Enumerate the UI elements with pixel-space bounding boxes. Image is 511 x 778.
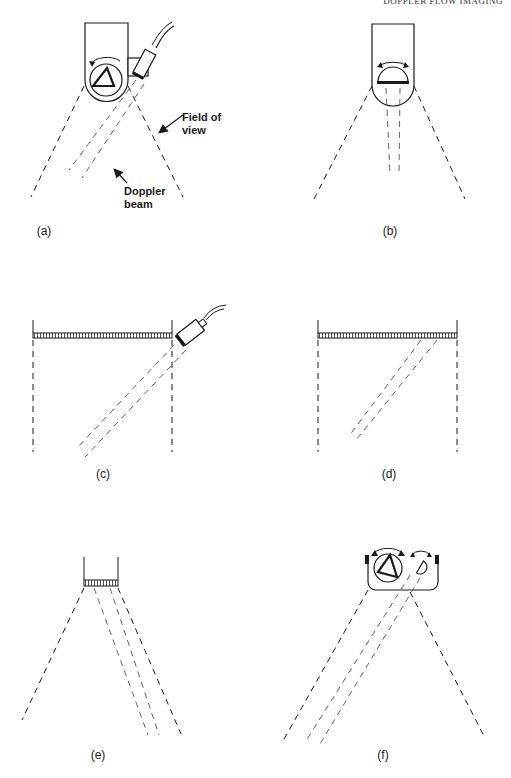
doppler-transducer	[175, 316, 210, 347]
field-of-view-label: Field of view	[182, 111, 221, 137]
doppler-beam-label-line1: Doppler	[124, 185, 166, 198]
panel-b-diagram	[314, 24, 465, 199]
caption-e: (e)	[91, 748, 106, 762]
field-of-view-edge-right	[410, 592, 484, 736]
caption-f: (f)	[377, 748, 388, 762]
rotation-arrow-icon	[374, 548, 402, 553]
field-of-view-edge-right	[128, 86, 183, 197]
panel-f-diagram	[283, 548, 484, 744]
panel-c-diagram	[33, 305, 226, 457]
panel-d-diagram	[318, 320, 457, 452]
scanner-housing	[372, 24, 414, 106]
linear-array-transducer	[318, 333, 457, 338]
doppler-beam-label-line2: beam	[124, 198, 166, 211]
caption-a: (a)	[37, 224, 52, 238]
field-of-view-edge-right	[118, 588, 181, 734]
doppler-beam-edge	[356, 340, 437, 440]
transducer-cable	[206, 309, 224, 320]
doppler-beam-edge	[320, 578, 420, 744]
caption-c: (c)	[96, 467, 110, 481]
field-of-view-edge-right	[414, 86, 465, 199]
doppler-beam-edge	[94, 588, 148, 735]
field-of-view-edge-left	[314, 86, 372, 199]
field-of-view-label-line1: Field of	[182, 111, 221, 124]
field-of-view-pointer-arrow	[160, 115, 183, 132]
doppler-beam-edge	[77, 345, 174, 448]
doppler-beam-edge	[306, 575, 410, 741]
phased-array-transducer	[84, 580, 118, 586]
doppler-beam-edge	[85, 350, 186, 457]
field-of-view-edge-left	[22, 588, 84, 720]
doppler-beam-pointer-arrow	[115, 170, 127, 183]
linear-array-transducer	[33, 333, 172, 338]
field-of-view-label-line2: view	[182, 124, 221, 137]
doppler-beam-edge	[349, 340, 421, 436]
field-of-view-edge-left	[283, 590, 368, 741]
doppler-beam-label: Doppler beam	[124, 185, 166, 211]
field-of-view-edge-left	[31, 86, 84, 197]
caption-b: (b)	[383, 224, 398, 238]
panel-a-diagram	[31, 22, 183, 197]
oscillating-doppler-transducer	[417, 561, 430, 577]
diagram-canvas	[0, 0, 511, 778]
doppler-beam-edge	[110, 588, 159, 735]
panel-e-diagram	[22, 557, 181, 735]
transducer-cable	[156, 26, 174, 48]
caption-d: (d)	[382, 467, 397, 481]
